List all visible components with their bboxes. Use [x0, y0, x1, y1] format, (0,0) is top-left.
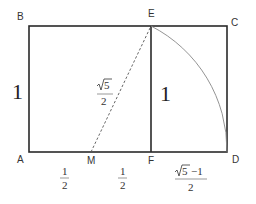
label-point-c: C [231, 17, 238, 28]
fraction-am-denominator: 2 [62, 179, 68, 191]
fraction-mf-denominator: 2 [120, 179, 126, 191]
fraction-fd-numerator-suffix: −1 [191, 165, 203, 177]
fraction-me-denominator: 2 [101, 95, 107, 107]
fraction-am-numerator: 1 [62, 165, 68, 177]
label-point-a: A [17, 154, 24, 165]
fraction-fd-numerator-root: 5 [182, 165, 188, 177]
fraction-me-numerator: 5 [104, 79, 110, 91]
fraction-fd-denominator: 2 [188, 181, 194, 193]
label-point-m: M [87, 155, 95, 166]
golden-rectangle-diagram: B E C A M F D 1 1 5 2 1 2 1 2 5 −1 2 [0, 0, 256, 204]
label-point-b: B [17, 11, 24, 22]
label-side-ab: 1 [12, 79, 23, 104]
fraction-me: 5 2 [97, 79, 113, 107]
fraction-mf: 1 2 [118, 165, 127, 191]
rectangle-abcd [29, 26, 227, 152]
fraction-mf-numerator: 1 [120, 165, 126, 177]
fraction-am: 1 2 [60, 165, 69, 191]
label-side-ef: 1 [160, 81, 171, 106]
label-point-e: E [148, 8, 155, 19]
label-point-f: F [148, 155, 154, 166]
dashed-segment-me [91, 26, 151, 152]
fraction-fd: 5 −1 2 [175, 165, 207, 193]
label-point-d: D [232, 154, 239, 165]
